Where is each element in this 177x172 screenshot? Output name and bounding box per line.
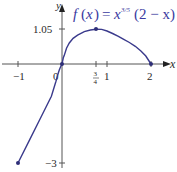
point-origin (60, 62, 64, 66)
y-tick-label-neg3: −3 (45, 157, 57, 169)
point-neg1-neg3 (16, 161, 20, 165)
function-curve (18, 29, 151, 163)
svg-text:(2 − x): (2 − x) (134, 6, 175, 23)
y-axis-label: y (55, 0, 61, 11)
marked-points (16, 27, 153, 165)
point-maximum (94, 27, 98, 31)
y-tick-label-1-05: 1.05 (33, 23, 53, 35)
svg-text:): ) (94, 6, 99, 23)
svg-text:x: x (85, 6, 93, 22)
x-ticks: −1 0 3 4 1 2 (13, 61, 153, 86)
svg-text:f: f (73, 6, 79, 22)
chart-title: f ( x ) = x 3/5 (2 − x) (73, 6, 175, 23)
x-tick-label-3over4-num: 3 (94, 70, 98, 78)
x-tick-label-neg1: −1 (13, 70, 25, 82)
point-2-0 (149, 62, 153, 66)
x-tick-label-2: 2 (147, 70, 153, 82)
svg-text:x: x (113, 6, 121, 22)
x-tick-label-3over4-den: 4 (94, 78, 98, 86)
x-axis-label: x (169, 57, 176, 71)
y-ticks: 1.05 −3 (33, 23, 65, 169)
svg-text:3/5: 3/5 (120, 6, 130, 14)
function-plot: x y −1 0 3 4 1 2 1.05 −3 f ( x ) = (0, 0, 177, 172)
svg-text:=: = (102, 6, 110, 22)
x-tick-label-1: 1 (104, 70, 110, 82)
